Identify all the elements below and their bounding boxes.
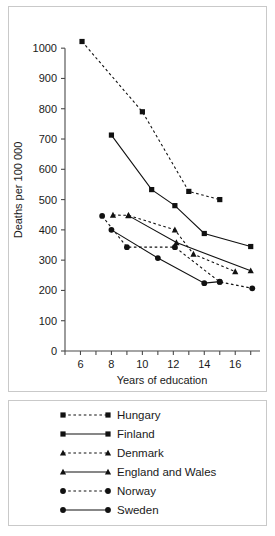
y-tick-label: 400 [39, 224, 57, 236]
data-point [186, 189, 191, 194]
data-point [217, 279, 223, 285]
data-point [79, 39, 84, 44]
data-point [99, 213, 105, 219]
data-point [248, 244, 253, 249]
y-tick-label: 500 [39, 194, 57, 206]
series-path [111, 230, 219, 283]
data-point [124, 244, 130, 250]
series-norway [99, 213, 255, 291]
y-tick-label: 300 [39, 254, 57, 266]
data-point [172, 244, 178, 250]
series-england-and-wales [125, 212, 253, 273]
data-point [140, 109, 145, 114]
y-tick-label: 800 [39, 103, 57, 115]
series-path [102, 216, 252, 288]
data-point [149, 187, 154, 192]
data-point [109, 227, 115, 233]
x-axis: 6810121416 [65, 351, 260, 370]
data-point [217, 197, 222, 202]
x-tick-label: 8 [108, 358, 114, 370]
y-tick-label: 900 [39, 72, 57, 84]
y-tick-label: 600 [39, 163, 57, 175]
line-chart: 01002003004005006007008009001000 6810121… [0, 0, 275, 400]
data-point [190, 251, 196, 257]
data-point [232, 268, 238, 274]
data-point [109, 132, 114, 137]
series-denmark [110, 212, 238, 275]
series-path [113, 215, 235, 272]
y-tick-label: 0 [51, 345, 57, 357]
series-path [111, 135, 250, 246]
series-finland [109, 132, 253, 249]
data-point [201, 280, 207, 286]
series-path [128, 216, 250, 271]
x-axis-title: Years of education [117, 374, 208, 386]
x-tick-label: 6 [77, 358, 83, 370]
legend-frame [8, 400, 267, 526]
y-tick-label: 200 [39, 284, 57, 296]
data-point [155, 255, 161, 261]
x-tick-label: 16 [229, 358, 241, 370]
series-hungary [79, 39, 222, 202]
x-tick-label: 14 [198, 358, 210, 370]
y-tick-label: 1000 [33, 42, 57, 54]
figure-container: 01002003004005006007008009001000 6810121… [0, 0, 275, 536]
data-point [172, 203, 177, 208]
data-point [202, 231, 207, 236]
data-point [249, 285, 255, 291]
y-tick-label: 100 [39, 315, 57, 327]
y-axis-title: Deaths per 100 000 [12, 142, 24, 239]
data-point [172, 227, 178, 233]
series-layer [79, 39, 255, 291]
x-tick-label: 10 [136, 358, 148, 370]
series-path [82, 42, 220, 200]
x-tick-label: 12 [167, 358, 179, 370]
y-axis: 01002003004005006007008009001000 [33, 42, 65, 357]
data-point [125, 212, 131, 218]
y-tick-label: 700 [39, 133, 57, 145]
